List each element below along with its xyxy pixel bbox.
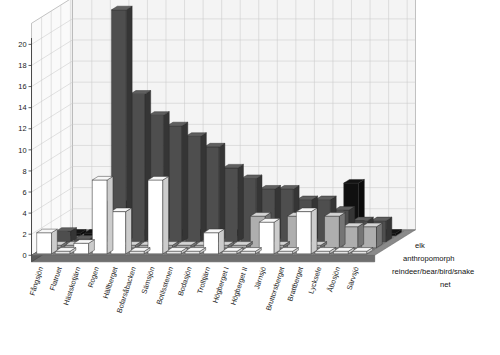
x-axis-category-label: Särvsjö	[345, 266, 361, 292]
bar-side-face	[126, 6, 132, 242]
bar	[111, 208, 132, 254]
bar-front-face	[56, 231, 71, 242]
bar	[74, 240, 95, 254]
x-axis-category-label: Lycksele	[306, 266, 323, 295]
y-axis-tick-label: 16	[18, 82, 26, 91]
bar-front-face	[315, 251, 330, 254]
bar-front-face	[55, 251, 70, 254]
bar	[92, 176, 113, 253]
bar	[130, 91, 151, 242]
y-axis-tick-label: 12	[18, 124, 26, 133]
x-axis-category-label: Hästskotjärn	[61, 266, 82, 307]
legend-label: anthropomorph	[403, 254, 455, 263]
bar-side-face	[219, 143, 225, 242]
x-axis-category-label: Flatruet	[48, 266, 64, 292]
y-axis-tick-label: 6	[22, 188, 26, 197]
bar-side-face	[339, 213, 345, 248]
x-axis-category-label: Bodasjön	[176, 266, 194, 297]
bar-front-face	[278, 251, 293, 254]
bar	[204, 143, 225, 242]
y-axis-tick-label: 2	[22, 230, 26, 239]
bar-side-face	[163, 176, 169, 253]
bar-front-face	[167, 251, 182, 254]
bar-side-face	[274, 219, 280, 254]
y-axis-tick-label: 0	[22, 251, 26, 260]
left-wall	[32, 0, 73, 255]
bar-front-face	[185, 251, 200, 254]
bar	[259, 219, 280, 254]
bar-front-face	[241, 251, 256, 254]
x-axis-category-label: Brattberget	[285, 266, 305, 303]
bar-front-face	[112, 10, 127, 242]
bar-side-face	[201, 133, 207, 242]
x-axis-category-label: Bruttorsberget	[264, 266, 287, 312]
bar	[186, 133, 207, 242]
legend-label: net	[440, 280, 451, 289]
bar-side-face	[386, 217, 392, 242]
x-axis-category-label: Åbosjön	[325, 266, 342, 293]
bar	[56, 228, 77, 242]
bar	[223, 164, 244, 241]
legend-label: elk	[415, 241, 425, 250]
x-axis-category-label: Hällberget	[101, 266, 120, 300]
bar	[167, 122, 188, 242]
y-axis-tick-label: 14	[18, 103, 26, 112]
y-axis-tick-label: 20	[18, 40, 26, 49]
bar-side-face	[107, 176, 113, 253]
bar-side-face	[311, 208, 317, 254]
bar-side-face	[52, 229, 58, 254]
bar-front-face	[334, 251, 349, 254]
bar-front-face	[148, 180, 163, 254]
bar	[343, 223, 364, 248]
bar	[112, 6, 133, 242]
bar-side-face	[376, 223, 382, 248]
bar-front-face	[37, 233, 52, 254]
x-axis-category-label: Botilsstenen	[154, 266, 175, 306]
x-axis-category-label: Trolltjärn	[195, 266, 212, 295]
bar	[296, 208, 317, 254]
x-axis-category-label: Högberget I	[211, 266, 231, 305]
x-axis-category-label: Järnsjö	[252, 266, 268, 291]
bar-front-face	[352, 251, 367, 254]
y-axis-tick-label: 4	[22, 209, 26, 218]
bar	[37, 229, 58, 254]
x-axis-category-label: Högberget II	[228, 266, 249, 306]
bar-side-face	[238, 164, 244, 241]
chart-legend: elkanthropomorphreindeer/bear/bird/snake…	[392, 241, 474, 289]
bar	[362, 223, 383, 248]
floor-front-face	[32, 255, 375, 262]
three-d-bar-chart: 02468101214161820FångsjönFlatruetHästsko…	[0, 0, 500, 355]
bar	[204, 229, 225, 254]
y-axis-tick-label: 8	[22, 167, 26, 176]
bar-front-face	[222, 251, 237, 254]
chart-canvas: 02468101214161820FångsjönFlatruetHästsko…	[0, 0, 500, 355]
y-axis-tick-label: 10	[18, 146, 26, 155]
bar-side-face	[218, 229, 224, 254]
bar-front-face	[204, 233, 219, 254]
bar-front-face	[129, 251, 144, 254]
x-axis-category-label: Bofarsåbacken	[115, 266, 138, 314]
x-axis-category-label: Rogen	[86, 266, 101, 289]
bar	[148, 176, 169, 253]
y-axis-tick-label: 18	[18, 61, 26, 70]
x-axis-category-label: Fångsjön	[28, 266, 46, 297]
legend-label: reindeer/bear/bird/snake	[392, 267, 474, 276]
bar-side-face	[126, 208, 132, 254]
bar	[325, 213, 346, 248]
bar-side-face	[182, 122, 188, 242]
x-axis-category-label: Sämsjön	[139, 266, 156, 295]
bar-side-face	[358, 223, 364, 248]
